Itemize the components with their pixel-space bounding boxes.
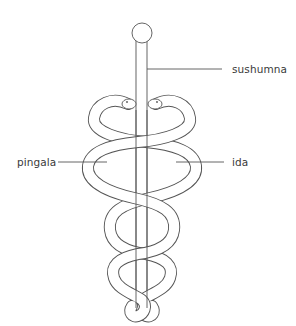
staff <box>136 38 147 308</box>
label-ida: ida <box>232 156 248 168</box>
label-sushumna: sushumna <box>232 63 287 75</box>
label-pingala: pingala <box>17 156 56 168</box>
staff-knob <box>132 23 152 43</box>
caduceus-diagram: sushumna pingala ida <box>0 0 296 326</box>
